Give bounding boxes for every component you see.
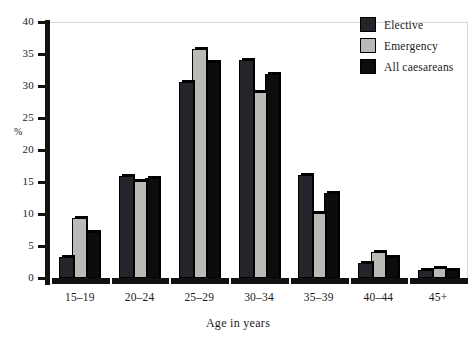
bar-face <box>358 263 373 278</box>
bar <box>119 178 132 278</box>
bar <box>179 84 192 278</box>
y-axis-tick <box>38 245 46 248</box>
x-axis-group-label: 45+ <box>408 291 468 303</box>
y-axis-tick <box>38 85 46 88</box>
y-axis-tick-label: 10 <box>8 208 34 219</box>
y-axis-tick <box>38 149 46 152</box>
y-axis-tick-label: 5 <box>8 240 34 251</box>
y-axis-tick-label: 40 <box>8 16 34 27</box>
x-axis-tick <box>408 278 410 284</box>
y-axis-tick-label: 15 <box>8 176 34 187</box>
x-axis-group-label: 35–39 <box>289 291 349 303</box>
x-axis-tick <box>349 278 351 284</box>
y-axis-tick <box>38 277 46 280</box>
y-axis-tick-label: 25 <box>8 112 34 123</box>
bar <box>358 265 371 278</box>
legend-item: All caesareans <box>360 56 454 77</box>
bar <box>298 177 311 278</box>
x-axis-tick <box>229 278 231 284</box>
x-axis-group-label: 15–19 <box>50 291 110 303</box>
y-axis-tick <box>38 53 46 56</box>
y-axis-tick-label: 0 <box>8 272 34 283</box>
x-axis-group-label: 20–24 <box>110 291 170 303</box>
legend-label: Elective <box>384 19 423 31</box>
bar-face <box>59 257 74 278</box>
legend-label: Emergency <box>384 40 438 52</box>
x-axis-tick <box>110 278 112 284</box>
bar <box>418 272 431 278</box>
x-axis-tick <box>169 278 171 284</box>
y-axis-tick <box>38 117 46 120</box>
legend-swatch-icon <box>360 17 376 32</box>
legend-swatch-icon <box>360 38 376 53</box>
x-axis-group-label: 30–34 <box>229 291 289 303</box>
y-axis-tick-label: 30 <box>8 80 34 91</box>
legend-label: All caesareans <box>384 61 454 73</box>
bar-face <box>119 176 134 278</box>
y-axis-tick <box>38 213 46 216</box>
chart-legend: ElectiveEmergencyAll caesareans <box>360 14 454 77</box>
legend-item: Elective <box>360 14 454 35</box>
x-axis-group-label: 40–44 <box>348 291 408 303</box>
x-axis-title: Age in years <box>0 316 476 331</box>
y-axis-tick-label: 20 <box>8 144 34 155</box>
bar <box>59 259 72 278</box>
legend-item: Emergency <box>360 35 454 56</box>
y-axis-tick <box>38 181 46 184</box>
y-axis-tick <box>38 21 46 24</box>
bar-face <box>298 175 313 278</box>
x-axis-spine <box>45 278 468 284</box>
y-axis-title: % <box>14 126 22 137</box>
bar-chart: 0510152025303540 % 15–1920–2425–2930–343… <box>0 0 476 337</box>
legend-swatch-icon <box>360 59 376 74</box>
x-axis-tick <box>289 278 291 284</box>
x-axis-tick <box>50 278 52 284</box>
bar-face <box>179 82 194 278</box>
bar <box>239 62 252 278</box>
y-axis-tick-label: 35 <box>8 48 34 59</box>
x-axis-group-label: 25–29 <box>169 291 229 303</box>
bar-face <box>239 60 254 278</box>
bar-face <box>418 270 433 278</box>
